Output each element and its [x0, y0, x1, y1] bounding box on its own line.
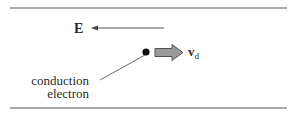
velocity-label: vd	[188, 44, 200, 61]
field-label: E	[74, 21, 83, 36]
drift-velocity-diagram: E vd conduction electron	[0, 0, 297, 114]
drift-velocity-arrow-icon	[155, 45, 183, 61]
electron-dot	[142, 48, 149, 55]
label-leader-line	[100, 55, 145, 80]
field-arrow-icon	[91, 26, 164, 31]
particle-label-line2: electron	[47, 86, 89, 101]
